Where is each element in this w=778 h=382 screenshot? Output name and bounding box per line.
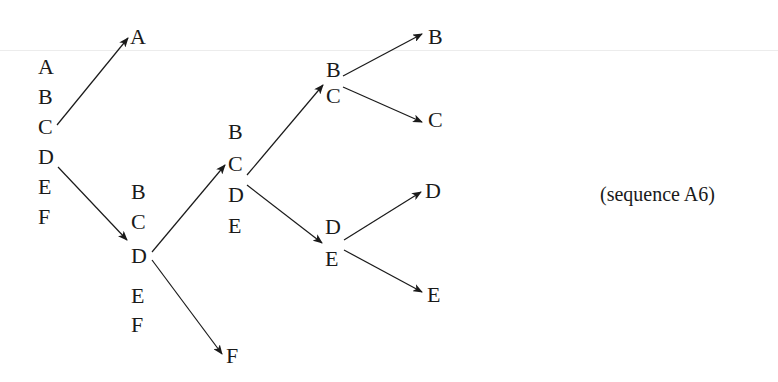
col4-top-letter: B [326, 59, 341, 81]
arrow-c-to-c [343, 87, 422, 122]
col1-letter: E [38, 176, 51, 198]
leaf-a: A [130, 26, 146, 48]
col2-letter: F [131, 314, 143, 336]
leaf-d: D [425, 180, 441, 202]
leaf-c: C [428, 109, 443, 131]
arrow-col3-to-col4-top [247, 85, 323, 175]
col3-letter: E [228, 215, 241, 237]
leaf-e: E [427, 284, 440, 306]
col4-bottom-letter: D [325, 216, 341, 238]
col4-bottom-letter: E [325, 248, 338, 270]
arrow-col3-to-col4-bottom [247, 185, 322, 243]
col1-letter: A [38, 56, 54, 78]
col2-letter: D [131, 245, 147, 267]
col1-letter: F [38, 206, 50, 228]
col2-letter: E [131, 285, 144, 307]
arrow-col2-to-col3 [152, 165, 225, 252]
arrow-col2-to-f [152, 260, 222, 354]
leaf-b: B [428, 26, 443, 48]
col4-top-letter: C [326, 85, 341, 107]
col2-letter: B [131, 181, 146, 203]
leaf-f: F [226, 345, 238, 367]
col1-letter: D [38, 146, 54, 168]
arrow-b-to-b [343, 34, 422, 76]
arrow-d-to-col2 [58, 167, 127, 240]
diagram-caption: (sequence A6) [600, 183, 715, 205]
arrow-c-to-a [57, 38, 128, 125]
col1-letter: C [38, 116, 53, 138]
col3-letter: C [228, 153, 243, 175]
col3-letter: D [228, 184, 244, 206]
col1-letter: B [38, 86, 53, 108]
arrow-e-to-e [344, 250, 422, 292]
col2-letter: C [131, 211, 146, 233]
col3-letter: B [228, 121, 243, 143]
arrow-d-to-d [344, 192, 421, 240]
